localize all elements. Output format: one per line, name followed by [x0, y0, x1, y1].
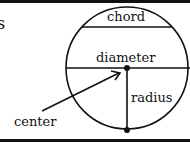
- radius-label: radius: [131, 90, 173, 105]
- radius-end-dot: [124, 127, 130, 133]
- chord-label: chord: [107, 9, 145, 24]
- center-label: center: [14, 114, 57, 129]
- diameter-label: diameter: [96, 50, 156, 65]
- center-dot: [124, 65, 130, 71]
- diagram-canvas: s chord diameter radius center: [0, 0, 190, 142]
- top-border: [0, 0, 190, 3]
- partial-label: s: [0, 14, 5, 33]
- center-arrow-line: [42, 73, 119, 111]
- circle-parts-diagram: s chord diameter radius center: [0, 0, 190, 142]
- bottom-border: [0, 139, 190, 142]
